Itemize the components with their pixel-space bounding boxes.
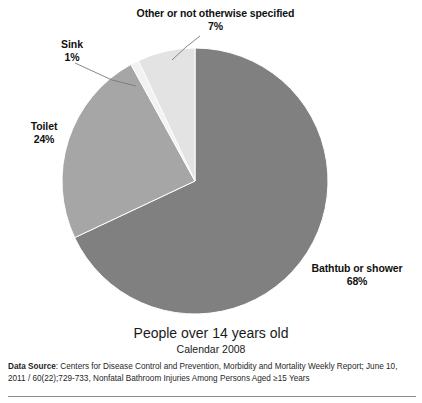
slice-label-other: Other or not otherwise specified 7%: [113, 7, 318, 33]
chart-title-block: People over 14 years old Calendar 2008: [0, 324, 422, 357]
slice-label-bathtub-or-shower-percent: 68%: [298, 275, 416, 288]
slice-label-other-percent: 7%: [113, 20, 318, 33]
slice-label-bathtub-or-shower: Bathtub or shower 68%: [298, 262, 416, 288]
data-source-text: Centers for Disease Control and Preventi…: [8, 362, 397, 383]
slice-label-toilet-name: Toilet: [31, 120, 58, 132]
slice-label-sink-name: Sink: [61, 38, 83, 50]
slice-label-sink: Sink 1%: [46, 38, 98, 64]
slice-label-other-name: Other or not otherwise specified: [137, 7, 295, 19]
chart-title: People over 14 years old: [0, 324, 422, 342]
data-source-note: Data Source: Centers for Disease Control…: [8, 361, 414, 384]
pie-chart-figure: Other or not otherwise specified 7% Sink…: [0, 0, 422, 403]
data-source-label: Data Source: [8, 362, 56, 371]
chart-subtitle: Calendar 2008: [0, 342, 422, 357]
slice-label-bathtub-or-shower-name: Bathtub or shower: [311, 262, 402, 274]
slice-label-sink-percent: 1%: [46, 51, 98, 64]
slice-label-toilet-percent: 24%: [12, 133, 76, 146]
footer-divider: [8, 396, 416, 397]
slice-label-toilet: Toilet 24%: [12, 120, 76, 146]
